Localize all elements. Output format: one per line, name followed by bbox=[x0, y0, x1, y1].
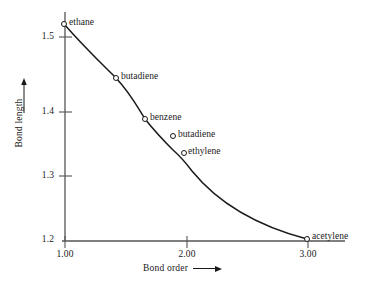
bond-order-bond-length-chart: 1.5 1.4 1.3 1.2 1.00 2.00 3.00 ethane bu… bbox=[0, 0, 366, 284]
y-tick-label-1: 1.5 bbox=[28, 31, 54, 41]
point-label-butadiene-2: butadiene bbox=[178, 129, 215, 139]
x-tick-label-3: 3.00 bbox=[291, 249, 325, 259]
data-point-butadiene-2 bbox=[171, 134, 176, 139]
y-tick-label-4: 1.2 bbox=[28, 234, 54, 244]
point-label-butadiene-1: butadiene bbox=[121, 71, 158, 81]
right-arrow-icon bbox=[193, 265, 223, 272]
point-label-ethylene: ethylene bbox=[188, 146, 221, 156]
data-point-butadiene-1 bbox=[114, 76, 119, 81]
data-point-benzene bbox=[143, 117, 148, 122]
x-tick-label-1: 1.00 bbox=[48, 249, 82, 259]
data-point-ethylene bbox=[182, 151, 187, 156]
y-axis-title-text: Bond length bbox=[14, 99, 24, 148]
y-tick-label-2: 1.4 bbox=[28, 106, 54, 116]
y-axis-title: Bond length bbox=[14, 58, 24, 188]
x-tick-label-2: 2.00 bbox=[170, 249, 204, 259]
point-label-ethane: ethane bbox=[69, 17, 94, 27]
point-label-acetylene: acetylene bbox=[312, 231, 348, 241]
y-tick-label-3: 1.3 bbox=[28, 170, 54, 180]
point-label-benzene: benzene bbox=[150, 112, 181, 122]
x-axis-title: Bond order bbox=[0, 263, 366, 273]
plot-area bbox=[0, 0, 366, 284]
data-point-acetylene bbox=[305, 237, 310, 242]
data-point-ethane bbox=[62, 22, 67, 27]
x-axis-title-text: Bond order bbox=[143, 263, 188, 273]
